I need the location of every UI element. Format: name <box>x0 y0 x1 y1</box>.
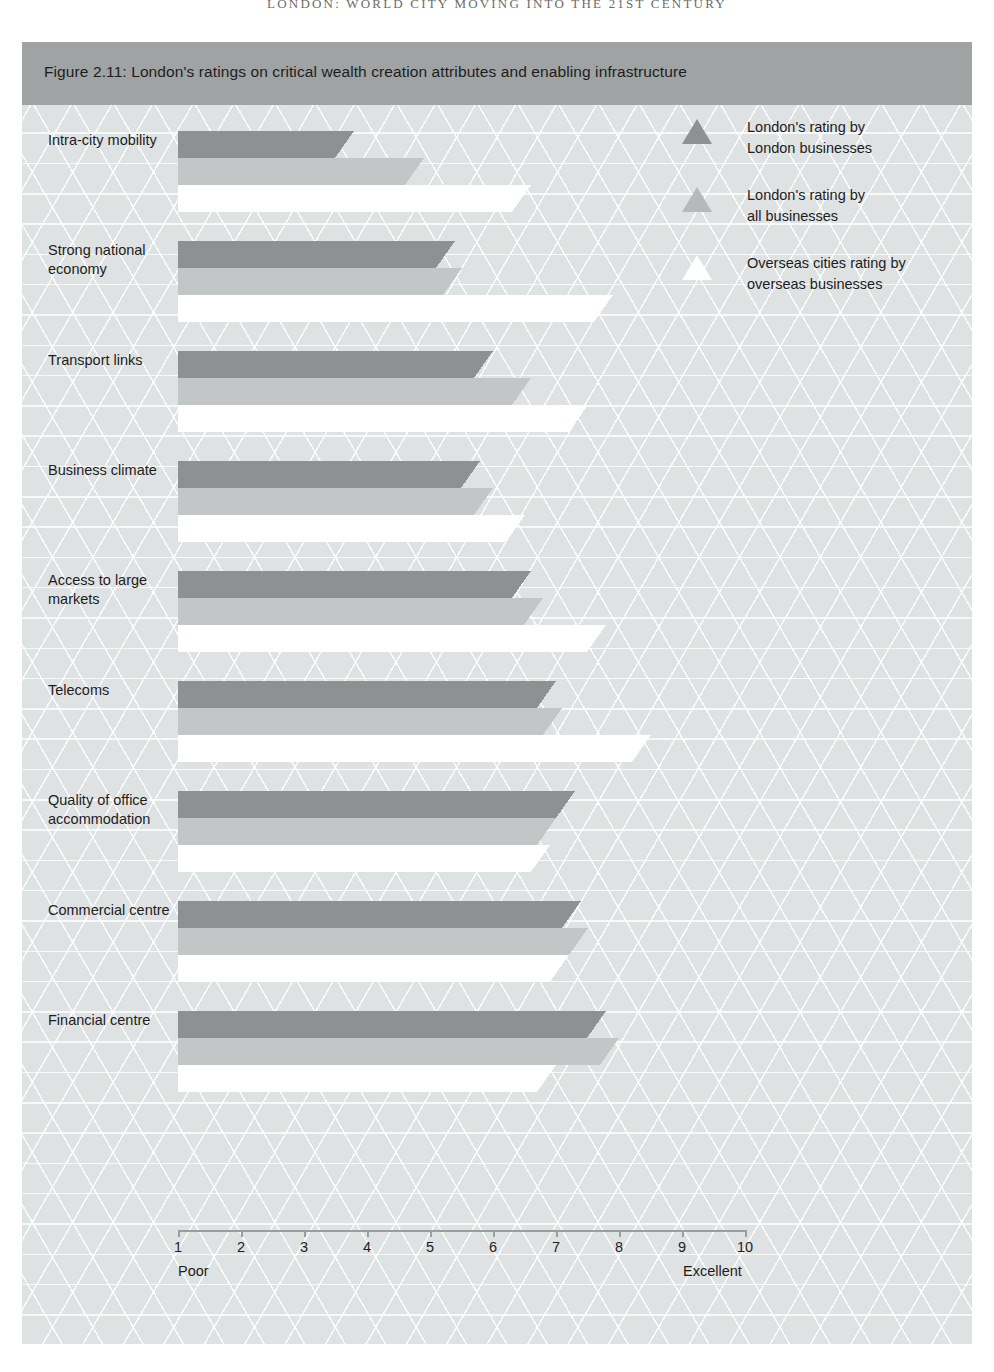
legend-item-label: London's rating by London businesses <box>747 117 872 159</box>
bar-slanted-end <box>335 131 354 158</box>
bar-mid <box>178 488 474 515</box>
axis-tick <box>304 1230 306 1237</box>
bar-body <box>178 158 405 185</box>
bar-dark <box>178 901 562 928</box>
bar-body <box>178 461 461 488</box>
bar-mid <box>178 1038 600 1065</box>
axis-tick <box>682 1230 684 1237</box>
bar-body <box>178 1065 537 1092</box>
bar-body <box>178 818 537 845</box>
bar-dark <box>178 571 512 598</box>
axis-high-label: Excellent <box>683 1263 742 1279</box>
axis-tick <box>556 1230 558 1237</box>
bar-slanted-end <box>562 901 581 928</box>
category-label: Quality of office accommodation <box>48 791 188 829</box>
bar-slanted-end <box>443 268 462 295</box>
bar-light <box>178 515 506 542</box>
bar-slanted-end <box>405 158 424 185</box>
bar-mid <box>178 598 524 625</box>
bar-slanted-end <box>512 185 531 212</box>
chart-legend: London's rating by London businesses Lon… <box>682 117 972 321</box>
bar-slanted-end <box>461 461 480 488</box>
axis-tick-label: 3 <box>300 1239 308 1255</box>
bar-slanted-end <box>512 571 531 598</box>
bar-slanted-end <box>600 1038 619 1065</box>
category-label: Intra-city mobility <box>48 131 188 150</box>
axis-tick-label: 6 <box>489 1239 497 1255</box>
axis-tick-label: 9 <box>678 1239 686 1255</box>
figure-caption: Figure 2.11: London's ratings on critica… <box>44 63 687 81</box>
axis-tick-label: 7 <box>552 1239 560 1255</box>
axis-tick <box>367 1230 369 1237</box>
category-label: Telecoms <box>48 681 188 700</box>
axis-low-label: Poor <box>178 1263 209 1279</box>
bar-slanted-end <box>569 405 588 432</box>
category-label: Business climate <box>48 461 188 480</box>
bar-body <box>178 268 443 295</box>
category-label: Strong national economy <box>48 241 188 279</box>
bar-light <box>178 845 531 872</box>
plot-area: Intra-city mobilityStrong national econo… <box>22 105 972 1344</box>
bar-slanted-end <box>587 625 606 652</box>
bar-slanted-end <box>550 955 569 982</box>
bar-light <box>178 185 512 212</box>
bar-mid <box>178 708 543 735</box>
bar-slanted-end <box>524 598 543 625</box>
axis-tick <box>619 1230 621 1237</box>
axis-tick-label: 1 <box>174 1239 182 1255</box>
category-label: Financial centre <box>48 1011 188 1030</box>
bar-dark <box>178 131 335 158</box>
bar-body <box>178 845 531 872</box>
bar-mid <box>178 818 537 845</box>
bar-slanted-end <box>506 515 525 542</box>
triangle-icon <box>682 187 712 212</box>
triangle-icon <box>682 119 712 144</box>
bar-mid <box>178 158 405 185</box>
bar-slanted-end <box>512 378 531 405</box>
bar-body <box>178 955 550 982</box>
bar-body <box>178 598 524 625</box>
bar-slanted-end <box>632 735 651 762</box>
axis-tick-label: 4 <box>363 1239 371 1255</box>
bar-slanted-end <box>474 488 493 515</box>
bar-body <box>178 708 543 735</box>
bar-slanted-end <box>543 708 562 735</box>
bar-mid <box>178 378 512 405</box>
bar-body <box>178 681 537 708</box>
bar-body <box>178 791 556 818</box>
bar-body <box>178 131 335 158</box>
legend-item: London's rating by London businesses <box>682 117 972 163</box>
axis-tick <box>745 1230 747 1237</box>
axis-tick <box>178 1230 180 1237</box>
bar-body <box>178 351 474 378</box>
bar-body <box>178 1038 600 1065</box>
legend-item-label: London's rating by all businesses <box>747 185 865 227</box>
bar-body <box>178 405 569 432</box>
bar-body <box>178 515 506 542</box>
category-label: Access to large markets <box>48 571 188 609</box>
bar-mid <box>178 268 443 295</box>
bar-dark <box>178 1011 587 1038</box>
bar-body <box>178 901 562 928</box>
bar-slanted-end <box>594 295 613 322</box>
bar-light <box>178 735 632 762</box>
bar-body <box>178 625 587 652</box>
legend-item-label: Overseas cities rating by overseas busin… <box>747 253 906 295</box>
bar-body <box>178 928 569 955</box>
bar-mid <box>178 928 569 955</box>
x-axis: 12345678910 Poor Excellent <box>22 1230 972 1300</box>
axis-tick-label: 2 <box>237 1239 245 1255</box>
bar-dark <box>178 791 556 818</box>
bar-slanted-end <box>537 818 556 845</box>
bar-body <box>178 488 474 515</box>
category-label: Transport links <box>48 351 188 370</box>
axis-tick <box>241 1230 243 1237</box>
bar-body <box>178 735 632 762</box>
axis-tick-label: 10 <box>737 1239 753 1255</box>
legend-item: London's rating by all businesses <box>682 185 972 231</box>
bar-slanted-end <box>556 791 575 818</box>
running-head: LONDON: WORLD CITY MOVING INTO THE 21ST … <box>0 0 994 8</box>
bar-dark <box>178 681 537 708</box>
bar-light <box>178 1065 537 1092</box>
axis-tick <box>430 1230 432 1237</box>
